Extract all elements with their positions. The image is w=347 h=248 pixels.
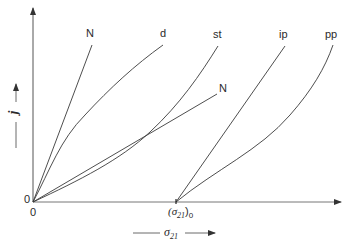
label-N-steep: N [86,28,94,39]
curve-N-steep [33,45,92,202]
x-axis-subscript: 21 [170,232,178,241]
curve-d [33,45,163,202]
curve-pp [176,45,333,202]
x-axis-title: σ21 [164,226,178,241]
threshold-open: (σ [168,205,177,217]
y-axis-title: j [6,111,19,115]
label-st: st [213,29,222,40]
curve-ip [176,46,285,202]
label-ip: ip [279,29,288,40]
threshold-label: (σ21)0 [168,206,193,220]
diagram: N d st N ip pp 0 0 (σ21)0 σ21 j [0,0,347,248]
label-N-shallow: N [219,83,227,94]
y-origin-label: 0 [24,194,30,205]
label-d: d [160,28,166,39]
label-pp: pp [325,29,337,40]
x-origin-label: 0 [30,207,36,218]
threshold-sub-zero: 0 [189,211,193,220]
threshold-subscript: 21 [177,211,185,220]
curve-st [33,46,218,202]
